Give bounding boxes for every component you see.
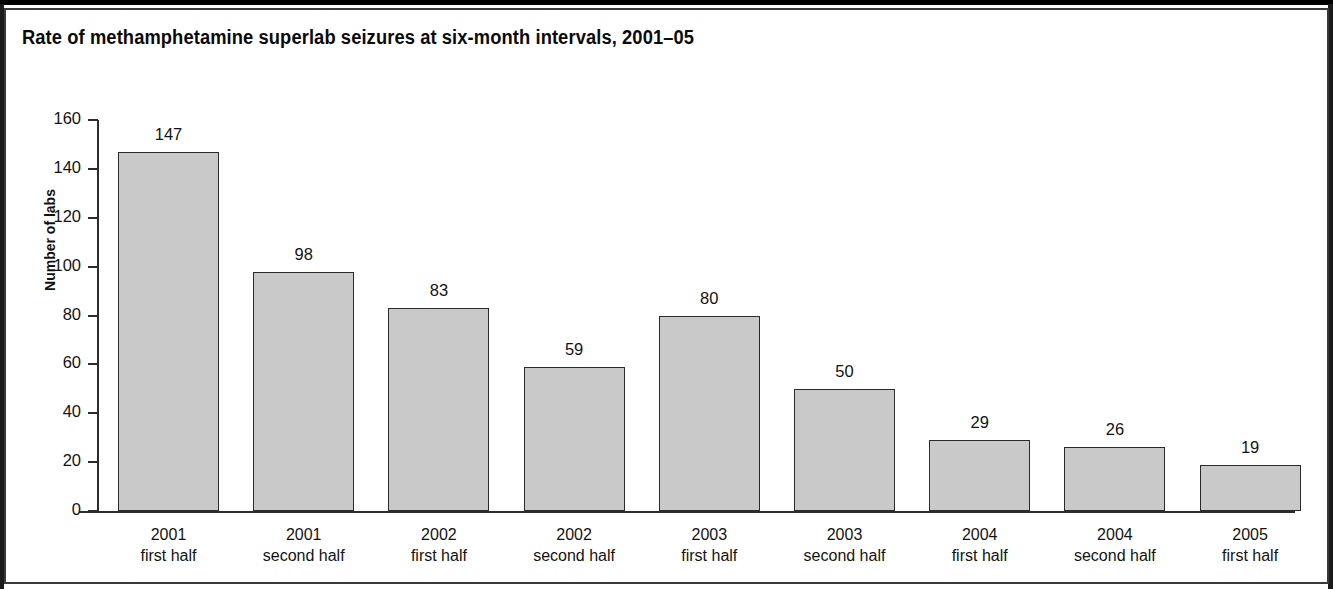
bar-value-label: 83	[388, 281, 489, 300]
y-axis-tick-label: 80	[63, 305, 81, 324]
y-axis-title: Number of labs	[42, 160, 58, 320]
bar-value-label: 147	[118, 125, 219, 144]
y-axis-tick-label: 100	[53, 256, 81, 275]
bar[interactable]	[659, 316, 760, 512]
x-axis-category-label: 2005first half	[1182, 524, 1319, 566]
bar[interactable]	[1200, 465, 1301, 511]
bar[interactable]	[1064, 447, 1165, 511]
x-axis-category-label: 2002first half	[370, 524, 507, 566]
bar-value-label: 50	[794, 362, 895, 381]
figure-panel: Rate of methamphetamine superlab seizure…	[0, 0, 1333, 589]
category-year: 2001	[286, 526, 322, 543]
category-year: 2004	[1097, 526, 1133, 543]
category-period: first half	[370, 545, 507, 566]
x-axis-line	[79, 511, 1295, 513]
y-axis-tick	[88, 412, 98, 414]
x-axis-category-label: 2003second half	[776, 524, 913, 566]
category-year: 2002	[421, 526, 457, 543]
category-period: second half	[776, 545, 913, 566]
bar-value-label: 59	[524, 340, 625, 359]
category-year: 2002	[556, 526, 592, 543]
category-year: 2004	[962, 526, 998, 543]
category-year: 2003	[827, 526, 863, 543]
category-period: second half	[235, 545, 372, 566]
bar[interactable]	[253, 272, 354, 511]
x-axis-category-label: 2002second half	[506, 524, 643, 566]
x-axis-category-label: 2001first half	[100, 524, 237, 566]
y-axis-tick-label: 0	[72, 500, 81, 519]
bar-value-label: 29	[929, 413, 1030, 432]
y-axis-tick-label: 120	[53, 207, 81, 226]
x-axis-category-label: 2004first half	[911, 524, 1048, 566]
bar-chart-plot: Number of labs 160140120100806040200 147…	[0, 0, 1333, 589]
y-axis-tick	[88, 315, 98, 317]
y-axis-tick-label: 40	[63, 402, 81, 421]
bar[interactable]	[388, 308, 489, 511]
y-axis-line	[97, 120, 99, 513]
bar-value-label: 19	[1200, 438, 1301, 457]
category-year: 2001	[151, 526, 187, 543]
y-axis-tick	[88, 266, 98, 268]
y-axis-tick	[88, 217, 98, 219]
category-year: 2005	[1232, 526, 1268, 543]
category-period: second half	[1046, 545, 1183, 566]
x-axis-category-label: 2004second half	[1046, 524, 1183, 566]
y-axis-tick-label: 60	[63, 353, 81, 372]
category-period: second half	[506, 545, 643, 566]
y-axis-tick-label: 140	[53, 158, 81, 177]
y-axis-tick	[88, 119, 98, 121]
y-axis-tick-label: 160	[53, 109, 81, 128]
x-axis-category-label: 2001second half	[235, 524, 372, 566]
bar[interactable]	[794, 389, 895, 511]
y-axis-tick-label: 20	[63, 451, 81, 470]
y-axis-tick	[88, 510, 98, 512]
category-period: first half	[100, 545, 237, 566]
category-period: first half	[911, 545, 1048, 566]
category-year: 2003	[692, 526, 728, 543]
category-period: first half	[641, 545, 778, 566]
x-axis-category-label: 2003first half	[641, 524, 778, 566]
bar-value-label: 98	[253, 245, 354, 264]
bar[interactable]	[524, 367, 625, 511]
bar[interactable]	[118, 152, 219, 511]
bar-value-label: 80	[659, 289, 760, 308]
bar-value-label: 26	[1064, 420, 1165, 439]
category-period: first half	[1182, 545, 1319, 566]
bar[interactable]	[929, 440, 1030, 511]
y-axis-tick	[88, 461, 98, 463]
y-axis-tick	[88, 363, 98, 365]
y-axis-tick	[88, 168, 98, 170]
